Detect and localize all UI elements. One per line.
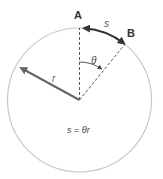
arc-s-label: s xyxy=(104,18,109,29)
theta-label: θ xyxy=(91,55,97,66)
arc-s xyxy=(84,28,124,43)
radius-to-b-dashed xyxy=(80,44,126,100)
radius-arrow xyxy=(21,68,80,100)
formula-label: s = θr xyxy=(67,125,91,135)
point-a-label: A xyxy=(74,9,82,21)
arc-length-diagram: A B s θ r s = θr xyxy=(0,0,163,179)
radius-label: r xyxy=(52,73,56,84)
point-b-label: B xyxy=(127,27,135,39)
